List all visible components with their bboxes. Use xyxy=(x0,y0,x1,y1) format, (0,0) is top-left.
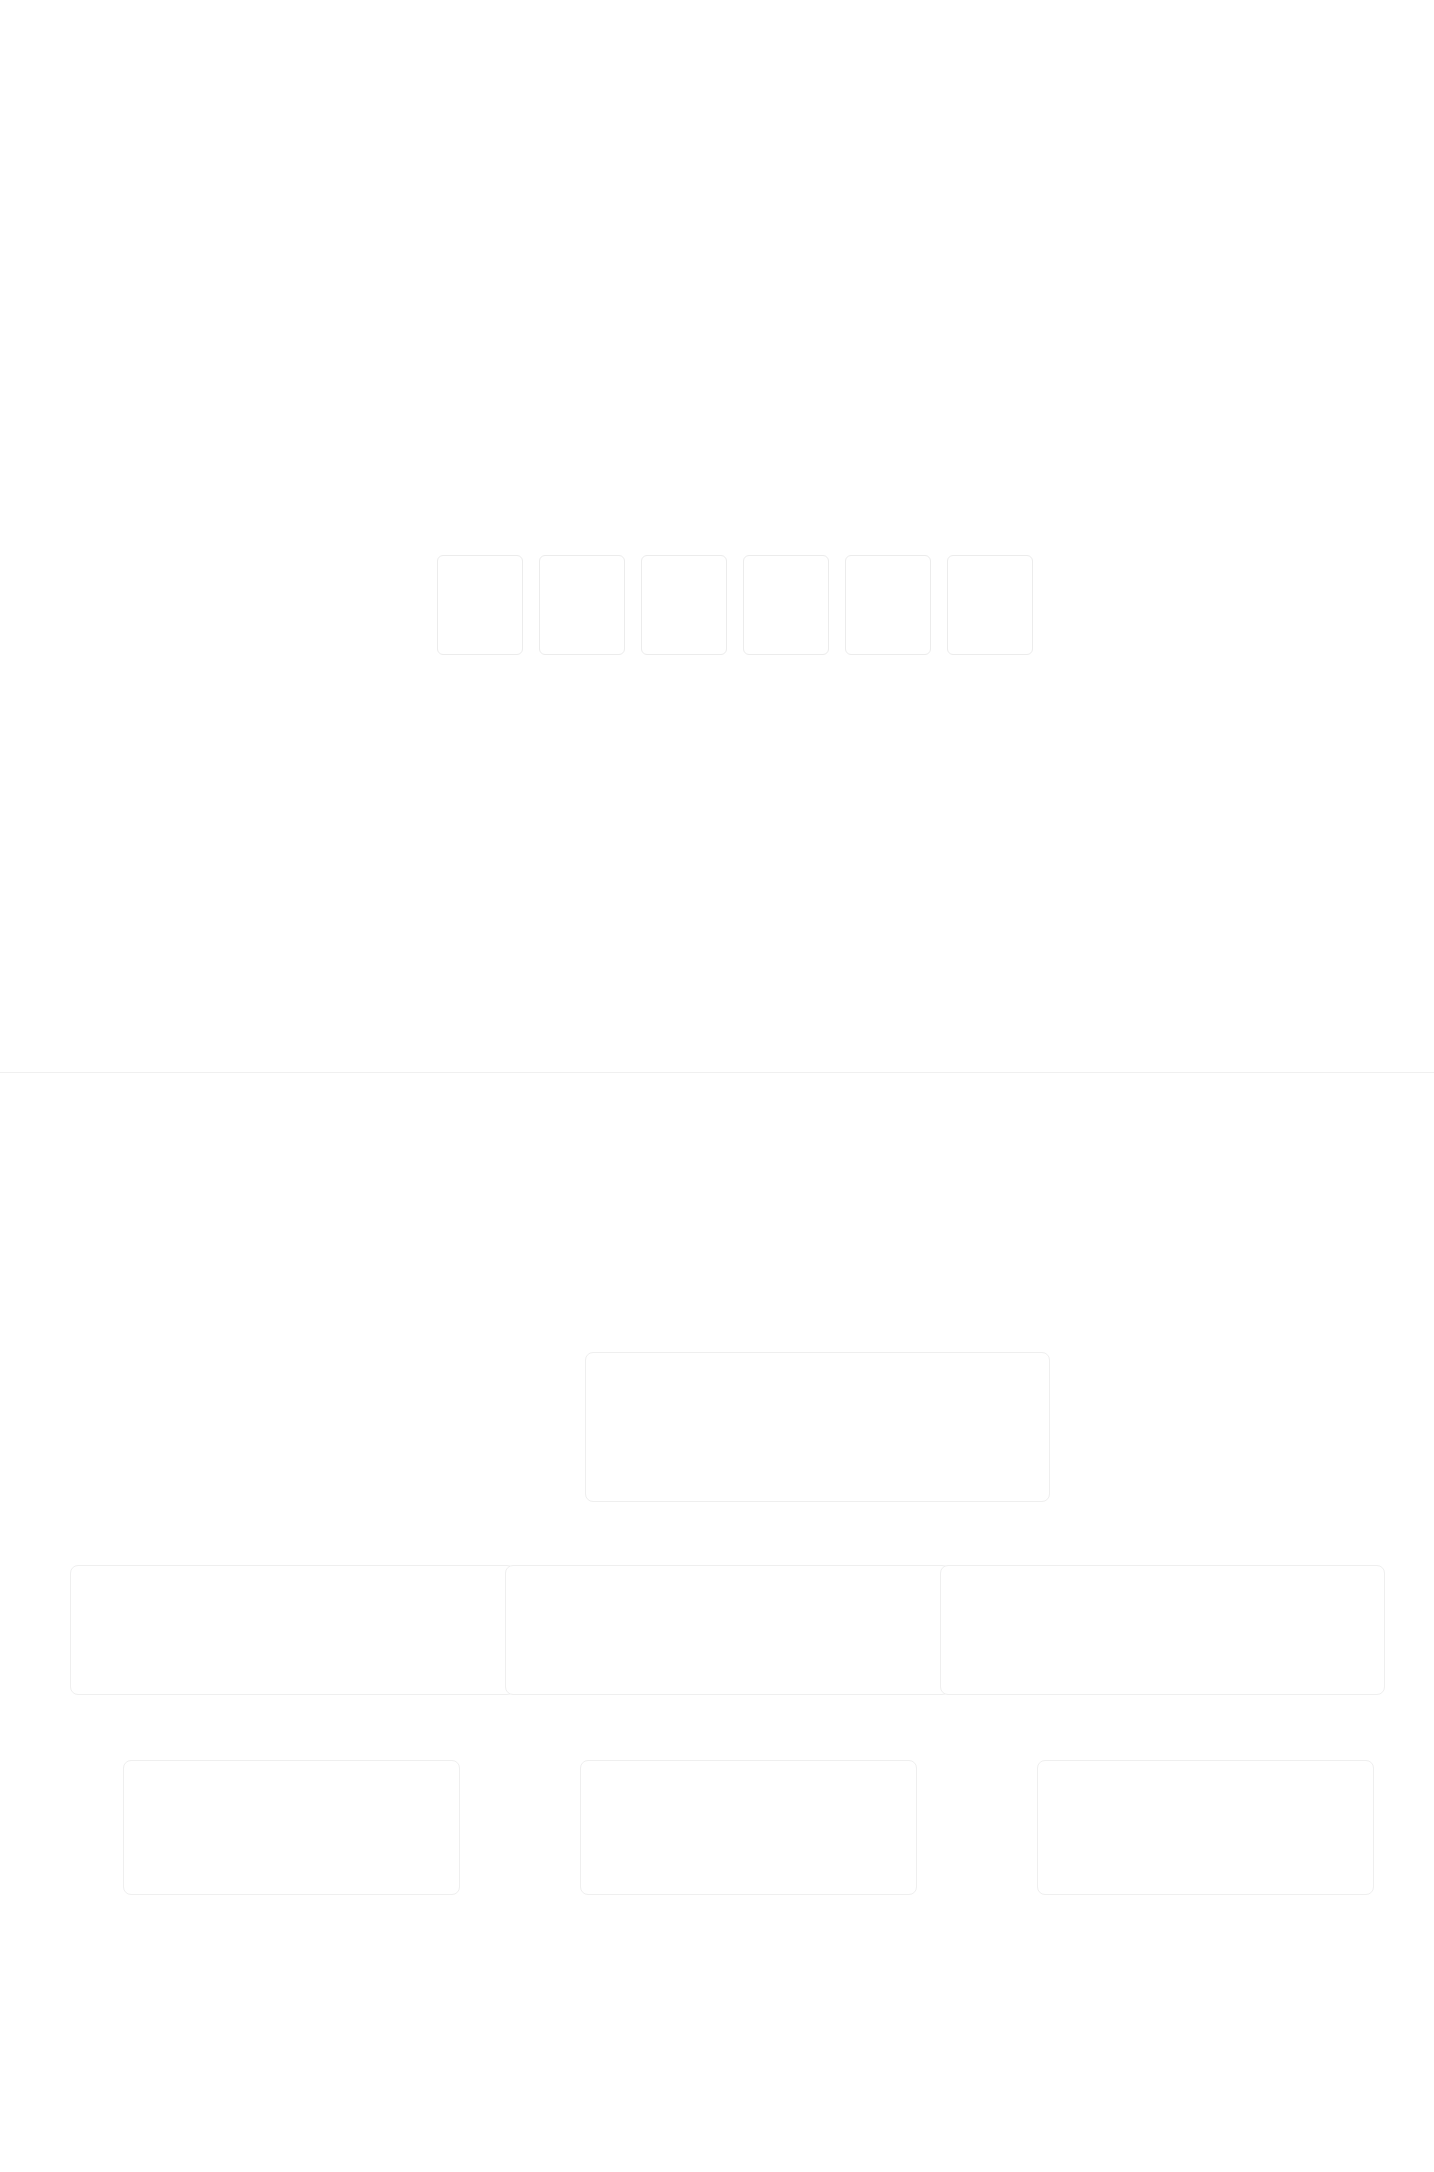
option-button-6[interactable] xyxy=(1037,1760,1374,1895)
section-divider xyxy=(0,1072,1434,1073)
options-row-1 xyxy=(70,1565,1375,1695)
option-button-2[interactable] xyxy=(505,1565,950,1695)
otp-digit-2[interactable] xyxy=(539,555,625,655)
otp-input-group xyxy=(437,555,1033,655)
option-button-5[interactable] xyxy=(580,1760,917,1895)
otp-digit-3[interactable] xyxy=(641,555,727,655)
option-button-3[interactable] xyxy=(940,1565,1385,1695)
otp-digit-1[interactable] xyxy=(437,555,523,655)
otp-digit-5[interactable] xyxy=(845,555,931,655)
option-button-1[interactable] xyxy=(70,1565,515,1695)
primary-action-button[interactable] xyxy=(585,1352,1050,1502)
otp-digit-6[interactable] xyxy=(947,555,1033,655)
options-row-2 xyxy=(123,1760,1374,1895)
otp-digit-4[interactable] xyxy=(743,555,829,655)
option-button-4[interactable] xyxy=(123,1760,460,1895)
